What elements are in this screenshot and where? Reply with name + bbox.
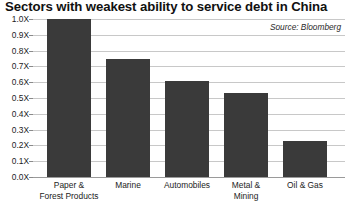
y-tick-mark xyxy=(29,177,33,178)
y-tick-label: 0.5X xyxy=(0,93,29,103)
y-tick-label: 0.9X xyxy=(0,30,29,40)
bar-chart: Sectors with weakest ability to service … xyxy=(0,0,345,215)
bar xyxy=(47,19,91,177)
y-tick-label: 0.4X xyxy=(0,109,29,119)
x-axis-label: Oil & Gas xyxy=(270,180,340,191)
y-tick-mark xyxy=(29,130,33,131)
y-tick-mark xyxy=(29,98,33,99)
bar xyxy=(165,81,209,177)
y-tick-label: 1.0X xyxy=(0,14,29,24)
y-tick-label: 0.3X xyxy=(0,125,29,135)
y-tick-mark xyxy=(29,114,33,115)
y-tick-mark xyxy=(29,82,33,83)
y-tick-label: 0.0X xyxy=(0,172,29,182)
bar xyxy=(283,141,327,177)
plot-area: 1.0X0.9X0.8X0.7X0.6X0.5X0.4X0.3X0.2X0.1X… xyxy=(33,19,345,177)
y-tick-mark xyxy=(29,66,33,67)
page-title: Sectors with weakest ability to service … xyxy=(5,0,345,15)
y-tick-mark xyxy=(29,51,33,52)
y-tick-mark xyxy=(29,145,33,146)
y-tick-mark xyxy=(29,35,33,36)
y-tick-mark xyxy=(29,161,33,162)
bar xyxy=(224,93,268,177)
y-tick-label: 0.8X xyxy=(0,46,29,56)
bar xyxy=(106,59,150,178)
axis-baseline xyxy=(33,177,345,178)
y-tick-label: 0.1X xyxy=(0,156,29,166)
y-tick-label: 0.7X xyxy=(0,61,29,71)
y-tick-label: 0.2X xyxy=(0,140,29,150)
y-tick-mark xyxy=(29,19,33,20)
y-tick-label: 0.6X xyxy=(0,77,29,87)
